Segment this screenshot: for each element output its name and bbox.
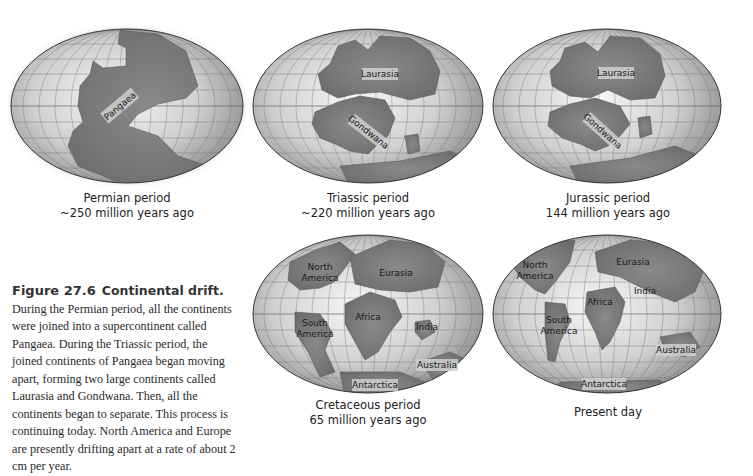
label-antarctica: Antarctica: [581, 379, 627, 389]
label-africa: Africa: [587, 297, 613, 307]
label-eurasia: Eurasia: [379, 268, 412, 278]
caption-jurassic: Jurassic period 144 million years ago: [490, 191, 726, 221]
caption-permian: Permian period ~250 million years ago: [8, 191, 246, 221]
label-india: India: [416, 322, 438, 332]
caption-present: Present day: [490, 405, 726, 420]
label-america: America: [516, 271, 553, 281]
label-laurasia: Laurasia: [361, 69, 399, 79]
label-antarctica: Antarctica: [352, 380, 398, 390]
caption-triassic: Triassic period ~220 million years ago: [250, 191, 486, 221]
period-name: Permian period: [8, 191, 246, 206]
label-australia: Australia: [417, 360, 457, 370]
period-age: ~250 million years ago: [8, 206, 246, 221]
label-north: North: [522, 260, 547, 270]
label-america: America: [296, 329, 333, 339]
map-triassic: Laurasia Gondwana: [250, 26, 486, 186]
period-age: 65 million years ago: [250, 413, 486, 428]
map-present: North America Eurasia Africa India South…: [490, 232, 726, 396]
period-name: Cretaceous period: [250, 398, 486, 413]
figure-legend: Figure 27.6 Continental drift. During th…: [12, 282, 237, 476]
period-name: Present day: [490, 405, 726, 420]
period-age: 144 million years ago: [490, 206, 726, 221]
map-cretaceous: North America Eurasia Africa South Ameri…: [250, 232, 486, 396]
map-jurassic: Laurasia Gondwana: [490, 26, 726, 186]
label-america: America: [301, 273, 338, 283]
figure-number: Figure 27.6: [12, 283, 96, 298]
label-north: North: [307, 262, 332, 272]
figure-caption: During the Permian period, all the conti…: [12, 302, 236, 474]
map-permian: Pangaea: [8, 26, 246, 186]
label-eurasia: Eurasia: [616, 257, 649, 267]
figure-title: Continental drift.: [102, 283, 224, 298]
caption-cretaceous: Cretaceous period 65 million years ago: [250, 398, 486, 428]
label-india: India: [634, 286, 656, 296]
period-age: ~220 million years ago: [250, 206, 486, 221]
period-name: Jurassic period: [490, 191, 726, 206]
label-america: America: [540, 326, 577, 336]
label-australia: Australia: [656, 345, 696, 355]
label-south: South: [302, 318, 328, 328]
label-africa: Africa: [355, 312, 381, 322]
label-laurasia: Laurasia: [597, 68, 635, 78]
label-south: South: [546, 315, 572, 325]
period-name: Triassic period: [250, 191, 486, 206]
